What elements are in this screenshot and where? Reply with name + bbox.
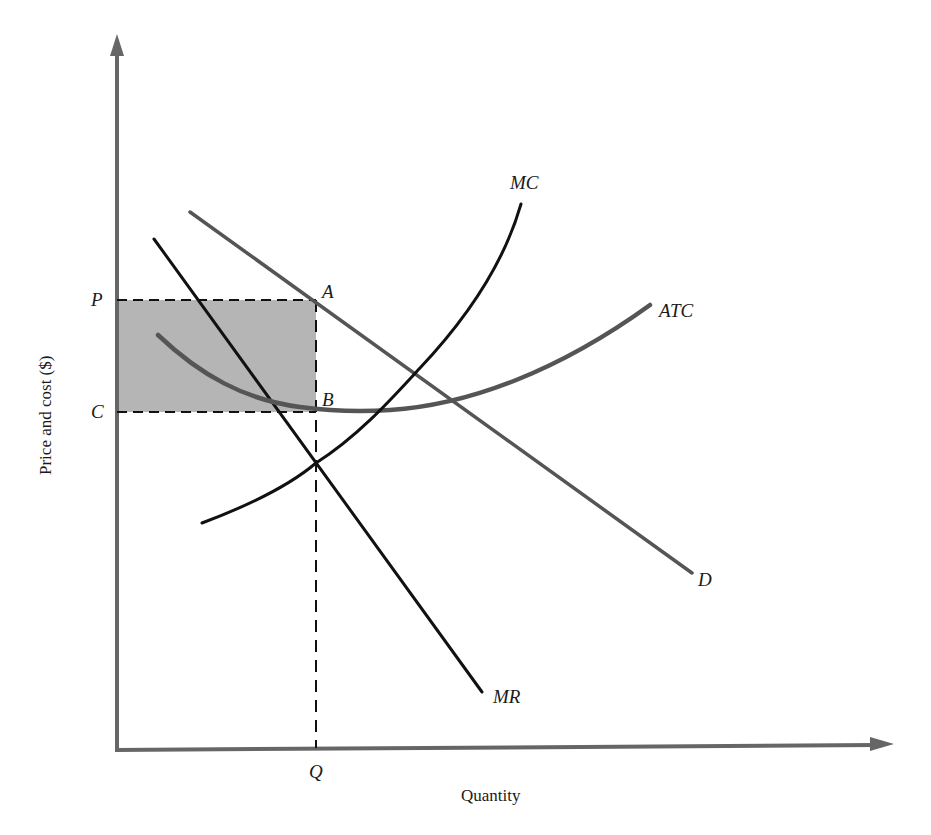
mr-label: MR [492, 686, 521, 707]
chart-canvas: MC ATC D MR A B P C Q Quantity Price and… [0, 0, 931, 835]
q-tick-label: Q [309, 761, 323, 782]
point-b-label: B [322, 389, 334, 410]
mc-label: MC [509, 172, 539, 193]
point-a-label: A [320, 281, 334, 302]
x-axis-arrow-icon [870, 737, 894, 751]
y-axis-arrow-icon [110, 34, 124, 56]
p-tick-label: P [90, 289, 103, 310]
c-tick-label: C [91, 401, 104, 422]
atc-label: ATC [657, 300, 693, 321]
x-axis-title: Quantity [461, 786, 521, 805]
d-label: D [697, 569, 712, 590]
profit-area [117, 300, 316, 412]
mr-curve [154, 239, 482, 692]
y-axis-title: Price and cost ($) [36, 356, 55, 475]
x-axis [115, 745, 876, 750]
